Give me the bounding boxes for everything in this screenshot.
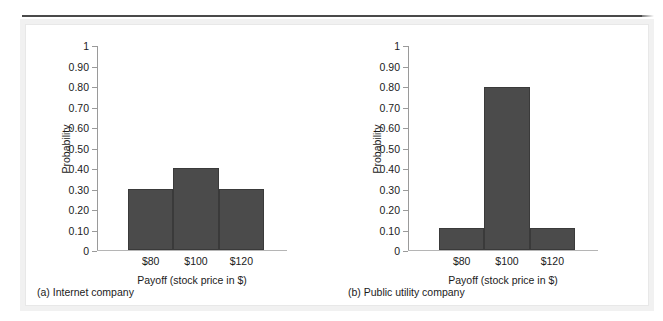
y-tick-mark — [403, 231, 408, 232]
y-tick-label: 1 — [394, 41, 400, 52]
y-tick-label: 0.90 — [380, 61, 400, 72]
top-rule-divider — [22, 15, 642, 17]
y-axis-line-b — [408, 46, 409, 251]
y-tick-mark — [92, 67, 97, 68]
y-tick-mark — [403, 190, 408, 191]
y-tick-mark — [403, 169, 408, 170]
y-tick-label: 0.80 — [69, 82, 89, 93]
y-tick-label: 0.60 — [69, 123, 89, 134]
y-tick-mark — [403, 251, 408, 252]
x-tick-group-b: $80 $100 $120 — [439, 255, 575, 267]
chart-caption-b: (b) Public utility company — [348, 286, 465, 298]
bar-a-2[interactable] — [219, 189, 264, 250]
y-tick-label: 0.10 — [69, 225, 89, 236]
y-tick-mark — [92, 108, 97, 109]
y-tick-mark — [403, 67, 408, 68]
y-tick-label: 0 — [83, 246, 89, 257]
y-tick-mark — [92, 87, 97, 88]
chart-caption-a: (a) Internet company — [37, 286, 134, 298]
y-tick-label: 1 — [83, 41, 89, 52]
y-tick-label: 0.40 — [69, 164, 89, 175]
y-tick-mark — [92, 231, 97, 232]
y-tick-label: 0.20 — [69, 205, 89, 216]
y-tick-mark — [92, 46, 97, 47]
y-tick-mark — [403, 46, 408, 47]
bar-a-1[interactable] — [173, 168, 218, 250]
x-axis-title-b: Payoff (stock price in $) — [408, 274, 598, 286]
y-tick-label: 0.30 — [380, 184, 400, 195]
chart-panel-b: Probability 1 0.90 0.80 — [336, 24, 647, 304]
chart-panel-a: Probability 1 0.90 0.80 — [25, 24, 336, 304]
y-tick-label: 0.20 — [380, 205, 400, 216]
plot-area-b: 1 0.90 0.80 0.70 — [408, 46, 598, 251]
y-tick-label: 0 — [394, 246, 400, 257]
y-tick-mark — [92, 210, 97, 211]
y-tick-mark — [92, 190, 97, 191]
x-axis-title-a: Payoff (stock price in $) — [97, 274, 287, 286]
y-tick-label: 0.10 — [380, 225, 400, 236]
x-tick-label: $100 — [173, 255, 218, 267]
y-tick-label: 0.50 — [380, 143, 400, 154]
y-tick-mark — [403, 108, 408, 109]
y-tick-label: 0.60 — [380, 123, 400, 134]
bar-a-0[interactable] — [128, 189, 173, 250]
bar-b-1[interactable] — [484, 87, 529, 250]
bar-b-2[interactable] — [530, 228, 575, 250]
bar-group-b — [439, 46, 575, 250]
top-rule-divider-fade — [642, 15, 654, 17]
x-tick-group-a: $80 $100 $120 — [128, 255, 264, 267]
y-tick-mark — [92, 128, 97, 129]
y-tick-label: 0.30 — [69, 184, 89, 195]
x-tick-label: $120 — [530, 255, 575, 267]
x-tick-label: $100 — [484, 255, 529, 267]
y-tick-mark — [403, 87, 408, 88]
y-tick-label: 0.90 — [69, 61, 89, 72]
figure-root: Probability 1 0.90 0.80 — [0, 0, 663, 321]
y-tick-mark — [403, 128, 408, 129]
y-tick-label: 0.40 — [380, 164, 400, 175]
y-tick-label: 0.70 — [69, 102, 89, 113]
charts-row: Probability 1 0.90 0.80 — [25, 24, 647, 304]
y-tick-label: 0.80 — [380, 82, 400, 93]
plot-area-a: 1 0.90 0.80 0.70 — [97, 46, 287, 251]
y-tick-mark — [92, 149, 97, 150]
y-tick-mark — [92, 251, 97, 252]
y-tick-label: 0.50 — [69, 143, 89, 154]
x-tick-label: $120 — [219, 255, 264, 267]
y-tick-label: 0.70 — [380, 102, 400, 113]
bar-b-0[interactable] — [439, 228, 484, 250]
x-tick-label: $80 — [439, 255, 484, 267]
x-axis-line-b — [408, 250, 598, 251]
y-tick-mark — [403, 149, 408, 150]
x-tick-label: $80 — [128, 255, 173, 267]
x-axis-line-a — [97, 250, 287, 251]
y-tick-mark — [403, 210, 408, 211]
y-axis-line-a — [97, 46, 98, 251]
y-tick-mark — [92, 169, 97, 170]
bar-group-a — [128, 46, 264, 250]
